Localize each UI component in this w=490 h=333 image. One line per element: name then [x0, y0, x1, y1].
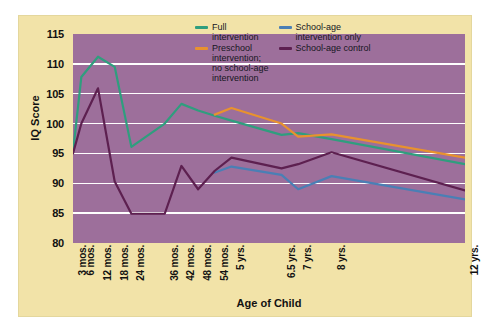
legend-swatch-icon — [279, 26, 292, 29]
y-tick-label-85: 85 — [52, 207, 64, 219]
x-tick-label-13: 12 yrs. — [469, 245, 480, 275]
legend-label: School-age intervention only — [296, 22, 362, 42]
chart-figure: IQ Score 11511010510095908580 3 mos.6 mo… — [19, 16, 471, 316]
legend-entry-0-1[interactable]: Preschool intervention; no school-age in… — [195, 43, 269, 83]
x-tick-label-10: 6.5 yrs. — [286, 245, 297, 278]
legend-entry-1-0[interactable]: School-age intervention only — [279, 22, 371, 42]
x-tick-label-7: 48 mos. — [202, 245, 213, 281]
x-axis-title: Age of Child — [73, 297, 465, 309]
legend-label: Preschool intervention; no school-age in… — [212, 43, 269, 83]
legend-label: School-age control — [296, 43, 371, 53]
legend-swatch-icon — [195, 26, 208, 29]
y-tick-label-115: 115 — [47, 28, 64, 40]
y-tick-label-105: 105 — [46, 88, 64, 100]
series-line-2 — [215, 167, 465, 200]
y-tick-label-110: 110 — [47, 58, 64, 70]
x-axis-tick-labels: 3 mos.6 mos.12 mos.18 mos.24 mos.36 mos.… — [73, 245, 465, 293]
chart-legend: Full interventionPreschool intervention;… — [195, 22, 407, 84]
x-tick-label-11: 7 yrs. — [302, 245, 313, 270]
x-tick-label-5: 36 mos. — [169, 245, 180, 281]
x-tick-label-4: 24 mos. — [135, 245, 146, 281]
y-tick-label-80: 80 — [52, 237, 64, 249]
y-tick-label-95: 95 — [52, 147, 64, 159]
legend-swatch-icon — [195, 47, 208, 50]
x-tick-label-12: 8 yrs. — [336, 245, 347, 270]
legend-column-1: School-age intervention onlySchool-age c… — [279, 22, 371, 84]
series-line-3 — [73, 88, 465, 213]
x-tick-label-9: 5 yrs. — [235, 245, 246, 270]
legend-column-0: Full interventionPreschool intervention;… — [195, 22, 269, 84]
legend-swatch-icon — [279, 47, 292, 50]
x-tick-label-6: 42 mos. — [185, 245, 196, 281]
x-tick-label-1: 6 mos. — [85, 245, 96, 275]
x-tick-label-8: 54 mos. — [219, 245, 230, 281]
x-tick-label-2: 12 mos. — [102, 245, 113, 281]
y-tick-label-90: 90 — [52, 177, 64, 189]
y-axis-tick-labels: 11511010510095908580 — [19, 34, 69, 243]
legend-entry-0-0[interactable]: Full intervention — [195, 22, 269, 42]
legend-entry-1-1[interactable]: School-age control — [279, 43, 371, 53]
x-tick-label-3: 18 mos. — [119, 245, 130, 281]
series-line-1 — [215, 108, 465, 158]
legend-label: Full intervention — [212, 22, 259, 42]
y-tick-label-100: 100 — [46, 118, 64, 130]
